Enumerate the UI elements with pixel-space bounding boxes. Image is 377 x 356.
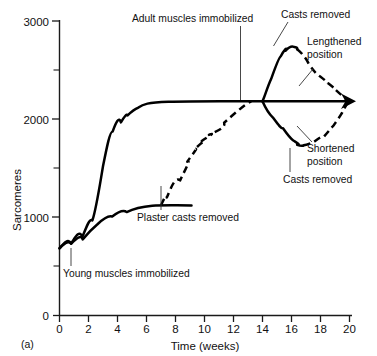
annotation-casts-removed-lengthened: Casts removed <box>281 9 351 20</box>
figure-panel-a: 0 1000 2000 3000 Sarcomeres 0 2 4 6 8 <box>0 0 377 356</box>
y-ticklabel-2000: 2000 <box>23 114 49 126</box>
y-ticklabel-0: 0 <box>43 310 49 322</box>
curve-shortened-position-fall <box>263 101 304 145</box>
annotation-shortened-position-line1: Shortened <box>307 143 355 154</box>
sarcomere-growth-chart: 0 1000 2000 3000 Sarcomeres 0 2 4 6 8 <box>0 0 377 356</box>
x-ticklabel-16: 16 <box>285 323 298 335</box>
panel-label: (a) <box>21 338 34 350</box>
leader-lengthened-position <box>299 69 313 86</box>
annotation-plaster-casts-removed: Plaster casts removed <box>137 212 239 223</box>
annotation-young-muscles-immobilized: Young muscles immobilized <box>63 268 190 279</box>
curve-recovery-after-plaster-casts <box>161 101 251 205</box>
leader-shortened-position <box>297 126 312 142</box>
x-ticklabel-4: 4 <box>114 323 121 335</box>
annotation-adult-muscles-immobilized: Adult muscles immobilized <box>132 13 254 24</box>
x-ticklabel-6: 6 <box>143 323 149 335</box>
y-axis-ticks <box>52 21 60 316</box>
annotation-shortened-position-line2: position <box>307 156 343 167</box>
x-ticklabel-18: 18 <box>314 323 327 335</box>
x-ticklabel-0: 0 <box>56 323 62 335</box>
x-ticklabel-12: 12 <box>227 323 240 335</box>
x-ticklabel-10: 10 <box>198 323 211 335</box>
annotation-lengthened-position-line1: Lengthened <box>307 36 362 47</box>
y-axis-title: Sarcomeres <box>11 169 23 231</box>
y-ticklabel-1000: 1000 <box>23 212 49 224</box>
leader-casts-removed-lengthened <box>274 22 289 46</box>
curve-adult-growth-sigmoid <box>60 101 263 248</box>
curve-lengthened-position-rise <box>263 47 298 102</box>
annotation-lengthened-position-line2: position <box>307 49 343 60</box>
y-ticklabel-3000: 3000 <box>23 16 49 28</box>
x-axis-tick-labels: 0 2 4 6 8 10 12 14 16 18 20 <box>56 323 356 335</box>
y-axis-tick-labels: 0 1000 2000 3000 <box>23 16 49 322</box>
curve-shortened-position-recovery <box>303 103 347 146</box>
x-axis-title: Time (weeks) <box>171 340 240 352</box>
x-ticklabel-14: 14 <box>256 323 269 335</box>
x-ticklabel-8: 8 <box>172 323 178 335</box>
annotation-casts-removed-shortened: Casts removed <box>283 174 353 185</box>
x-ticklabel-2: 2 <box>85 323 91 335</box>
x-axis-ticks <box>60 316 350 323</box>
x-ticklabel-20: 20 <box>343 323 356 335</box>
